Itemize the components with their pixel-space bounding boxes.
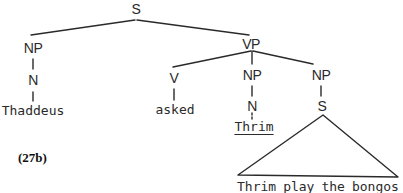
- phrase-word-bongos: bongos: [352, 179, 399, 193]
- node-s-complement: S: [318, 99, 327, 113]
- triangle-phrase: Thrimplaythebongos: [237, 179, 399, 193]
- node-np-subject: NP: [24, 41, 42, 55]
- phrase-word-thrim: Thrim: [237, 179, 276, 193]
- leaf-thrim-object: Thrim: [234, 120, 273, 133]
- edge-s-np: [31, 20, 135, 35]
- edge-vp-v: [173, 51, 251, 67]
- leaf-asked: asked: [155, 103, 194, 116]
- node-vp: VP: [242, 37, 260, 51]
- node-np-object: NP: [243, 68, 261, 82]
- phrase-word-play: play: [283, 179, 314, 193]
- node-n-object: N: [247, 99, 257, 113]
- leaf-thaddeus: Thaddeus: [2, 104, 65, 117]
- edge-s-vp: [137, 20, 249, 35]
- edge-vp-np-comp: [253, 51, 313, 64]
- node-s-root: S: [132, 2, 141, 16]
- example-caption: (27b): [18, 150, 47, 166]
- node-v: V: [170, 71, 179, 85]
- node-n-subject: N: [28, 73, 38, 87]
- phrase-word-the: the: [321, 179, 344, 193]
- syntax-tree-edges: [0, 0, 403, 193]
- node-np-complement: NP: [312, 68, 330, 82]
